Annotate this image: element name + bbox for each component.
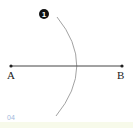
point-a-dot	[9, 64, 12, 67]
point-a-label: A	[7, 70, 15, 81]
bottom-strip	[0, 122, 133, 128]
page-number: 04	[7, 114, 15, 121]
construction-diagram: 1 A B 04	[0, 0, 133, 128]
point-b-label: B	[117, 70, 124, 81]
diagram-svg	[0, 0, 133, 128]
point-b-dot	[120, 64, 123, 67]
step-badge-number: 1	[42, 10, 47, 19]
